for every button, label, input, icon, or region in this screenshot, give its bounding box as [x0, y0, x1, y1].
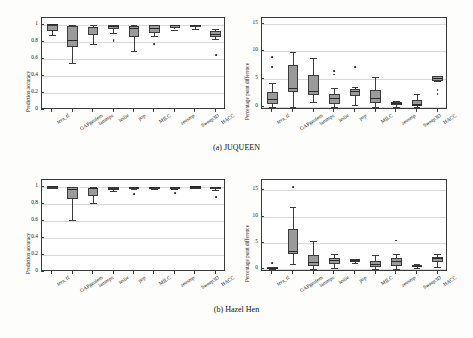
x-axis-tick-mark — [174, 271, 175, 274]
x-axis-tick-mark — [437, 271, 438, 274]
x-axis-tick-label-leslie: leslie — [338, 113, 350, 123]
x-axis-tick-mark — [215, 109, 216, 112]
y-axis-tick-label: 0.8 — [31, 200, 38, 205]
y-axis-tick-label: 10 — [253, 48, 258, 53]
whisker-cap-lower — [212, 39, 219, 40]
whisker-cap-upper — [434, 254, 441, 255]
whisker-cap-lower — [434, 81, 441, 82]
x-axis-tick-label-tera_tf: tera_tf — [56, 113, 70, 125]
x-axis-tick-mark — [215, 271, 216, 274]
x-axis-tick-label-Sweep3D: Sweep3D — [422, 113, 442, 128]
whisker-cap-lower — [434, 267, 441, 268]
x-axis-tick-label-pop: pop — [137, 275, 146, 284]
plot-area-juqueen-difference — [261, 17, 447, 109]
x-axis-tick-mark — [113, 271, 114, 274]
axis-label-y-difference-juqueen: Percentage point difference — [245, 63, 250, 120]
y-axis-tick-label: 0.8 — [31, 38, 38, 43]
x-axis-tick-mark — [51, 109, 52, 112]
x-axis-tick-label-HACC: HACC — [442, 113, 457, 125]
y-axis-tick-mark — [41, 24, 44, 25]
y-axis-tick-mark — [261, 106, 264, 107]
y-axis-tick-mark — [261, 78, 264, 79]
x-axis-tick-label-tera_tf: tera_tf — [277, 113, 291, 125]
x-axis-tick-label-zeusmp: zeusmp — [401, 275, 417, 288]
x-axis-tick-mark — [292, 271, 293, 274]
y-axis-tick-label: 0 — [255, 103, 258, 108]
outlier-point — [215, 197, 217, 199]
x-axis-tick-mark — [153, 271, 154, 274]
outlier-point — [215, 54, 217, 56]
x-axis-tick-mark — [354, 109, 355, 112]
y-axis-tick-label: 10 — [253, 213, 258, 218]
x-axis-tick-label-HACC: HACC — [220, 275, 235, 287]
x-axis-tick-mark — [375, 271, 376, 274]
x-axis-tick-label-HACC: HACC — [220, 113, 235, 125]
x-axis-tick-mark — [133, 109, 134, 112]
panel-hazelhen-accuracy: Prediction accuracy 00.20.40.60.81tera_t… — [0, 162, 236, 302]
x-axis-tick-mark — [313, 109, 314, 112]
y-axis-tick-mark — [41, 271, 44, 272]
x-axis-tick-label-Sweep3D: Sweep3D — [201, 275, 221, 290]
x-axis-tick-mark — [133, 271, 134, 274]
y-axis-tick-mark — [41, 41, 44, 42]
y-axis-tick-label: 1 — [35, 21, 38, 26]
y-axis-tick-mark — [41, 237, 44, 238]
median-line — [210, 34, 221, 35]
x-axis-tick-mark — [92, 271, 93, 274]
y-axis-tick-label: 0.4 — [31, 234, 38, 239]
x-axis-tick-label-MILC: MILC — [159, 113, 173, 124]
x-axis-tick-label-pop: pop — [137, 113, 146, 122]
x-axis-tick-mark — [354, 271, 355, 274]
boxplot-HACC — [42, 180, 225, 270]
median-line — [432, 78, 443, 79]
whisker-cap-lower — [212, 190, 219, 191]
panel-juqueen-difference: Percentage point difference 051015tera_t… — [236, 0, 473, 140]
x-axis-tick-label-MILC: MILC — [380, 275, 394, 286]
x-axis-tick-label-pop: pop — [358, 275, 367, 284]
outlier-point — [437, 89, 439, 91]
median-line — [210, 187, 221, 188]
plot-area-juqueen-accuracy — [41, 17, 225, 109]
plot-area-hazelhen-difference — [261, 179, 447, 271]
y-axis-tick-label: 0 — [35, 268, 38, 273]
x-axis-tick-mark — [72, 109, 73, 112]
y-axis-tick-label: 0.4 — [31, 72, 38, 77]
x-axis-tick-label-pop: pop — [358, 113, 367, 122]
y-axis-tick-mark — [41, 186, 44, 187]
y-axis-tick-label: 15 — [253, 20, 258, 25]
panel-juqueen-accuracy: Prediction accuracy 00.20.40.60.81tera_t… — [0, 0, 236, 140]
x-axis-tick-mark — [174, 109, 175, 112]
x-axis-tick-mark — [194, 271, 195, 274]
y-axis-tick-label: 5 — [255, 239, 258, 244]
whisker-cap-upper — [212, 29, 219, 30]
x-axis-tick-mark — [375, 109, 376, 112]
panel-hazelhen-difference: Percentage point difference 051015tera_t… — [236, 162, 473, 302]
y-axis-tick-mark — [41, 203, 44, 204]
boxplot-HACC — [262, 180, 447, 270]
y-axis-tick-mark — [41, 109, 44, 110]
x-axis-tick-mark — [153, 109, 154, 112]
y-axis-tick-mark — [41, 75, 44, 76]
x-axis-tick-label-zeusmp: zeusmp — [179, 113, 195, 126]
y-axis-tick-label: 1 — [35, 183, 38, 188]
x-axis-tick-label-zeusmp: zeusmp — [179, 275, 195, 288]
caption-hazelhen: (b) Hazel Hen — [0, 305, 473, 314]
x-axis-tick-mark — [395, 271, 396, 274]
y-axis-tick-mark — [261, 50, 264, 51]
y-axis-tick-mark — [261, 216, 264, 217]
outlier-point — [437, 94, 439, 96]
x-axis-tick-label-HACC: HACC — [442, 275, 457, 287]
x-axis-tick-mark — [194, 109, 195, 112]
y-axis-tick-mark — [261, 242, 264, 243]
y-axis-tick-mark — [41, 58, 44, 59]
x-axis-tick-mark — [333, 109, 334, 112]
x-axis-tick-mark — [113, 109, 114, 112]
y-axis-tick-label: 0 — [255, 265, 258, 270]
x-axis-tick-mark — [292, 109, 293, 112]
x-axis-tick-label-MILC: MILC — [380, 113, 394, 124]
y-axis-tick-mark — [261, 23, 264, 24]
x-axis-tick-label-zeusmp: zeusmp — [401, 113, 417, 126]
x-axis-tick-label-leslie: leslie — [117, 113, 129, 123]
y-axis-tick-mark — [261, 189, 264, 190]
x-axis-tick-mark — [416, 271, 417, 274]
